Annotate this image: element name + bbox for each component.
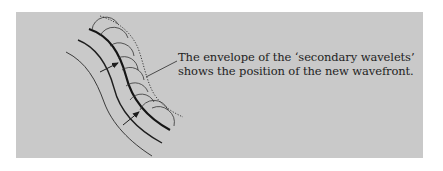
caption-line-2: shows the position of the new wavefront. xyxy=(178,64,414,78)
caption-line-1: The envelope of the ‘secondary wavelets’ xyxy=(178,50,414,64)
huygens-wavefront-diagram xyxy=(0,0,443,171)
propagation-arrow-lower xyxy=(123,112,139,125)
propagation-arrow-upper xyxy=(100,63,118,72)
envelope-dotted-line xyxy=(100,16,183,117)
secondary-wavelets xyxy=(92,17,174,126)
caption-leader-line xyxy=(146,61,177,77)
current-wavefront-line xyxy=(89,29,170,130)
caption: The envelope of the ‘secondary wavelets’… xyxy=(178,50,414,78)
middle-wavefront-line xyxy=(78,40,162,143)
